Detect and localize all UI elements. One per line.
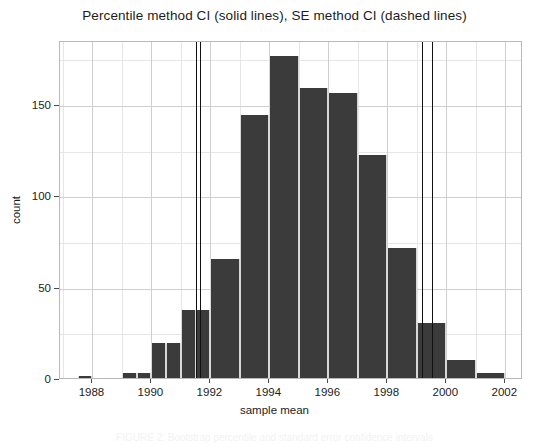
histogram-bar bbox=[446, 360, 475, 378]
histogram-bar bbox=[210, 259, 239, 378]
histogram-bar bbox=[151, 343, 166, 378]
histogram-bar bbox=[137, 373, 152, 378]
x-tick-mark bbox=[386, 379, 387, 383]
histogram-bar bbox=[78, 376, 93, 378]
x-tick-label: 1990 bbox=[138, 386, 164, 398]
x-tick-label: 1988 bbox=[79, 386, 105, 398]
gridline-vertical-minor bbox=[122, 42, 123, 378]
percentile-ci-lower bbox=[196, 42, 197, 378]
y-tick-label: 50 bbox=[7, 282, 51, 294]
x-tick-mark bbox=[504, 379, 505, 383]
histogram-bar bbox=[387, 248, 416, 378]
x-axis-label: sample mean bbox=[0, 404, 549, 416]
histogram-bar bbox=[122, 373, 137, 378]
histogram-bar bbox=[181, 310, 196, 378]
histogram-figure: Percentile method CI (solid lines), SE m… bbox=[0, 0, 549, 448]
histogram-bar bbox=[358, 155, 387, 378]
histogram-bar bbox=[328, 93, 357, 378]
histogram-bar bbox=[166, 343, 181, 378]
histogram-bar bbox=[196, 310, 211, 378]
histogram-bar bbox=[476, 373, 505, 378]
x-tick-label: 1994 bbox=[256, 386, 282, 398]
gridline-vertical bbox=[505, 42, 506, 378]
x-tick-mark bbox=[209, 379, 210, 383]
x-tick-mark bbox=[150, 379, 151, 383]
figure-caption: FIGURE 2: Bootstrap percentile and stand… bbox=[0, 432, 549, 443]
x-tick-label: 1998 bbox=[374, 386, 400, 398]
x-tick-mark bbox=[91, 379, 92, 383]
y-tick-label: 0 bbox=[7, 373, 51, 385]
gridline-vertical-minor bbox=[476, 42, 477, 378]
se-ci-upper bbox=[422, 42, 423, 378]
x-tick-label: 2002 bbox=[492, 386, 518, 398]
y-tick-label: 100 bbox=[7, 190, 51, 202]
y-tick-mark bbox=[54, 379, 59, 380]
x-tick-mark bbox=[268, 379, 269, 383]
gridline-vertical bbox=[92, 42, 93, 378]
gridline-vertical bbox=[446, 42, 447, 378]
x-tick-label: 1996 bbox=[315, 386, 341, 398]
x-tick-label: 2000 bbox=[433, 386, 459, 398]
chart-title: Percentile method CI (solid lines), SE m… bbox=[0, 8, 549, 23]
gridline-vertical-minor bbox=[63, 42, 64, 378]
histogram-bar bbox=[299, 88, 328, 378]
y-tick-label: 150 bbox=[7, 99, 51, 111]
plot-area bbox=[59, 41, 522, 379]
histogram-bar bbox=[269, 56, 298, 378]
y-tick-mark bbox=[54, 196, 59, 197]
x-tick-mark bbox=[327, 379, 328, 383]
y-tick-mark bbox=[54, 105, 59, 106]
x-tick-mark bbox=[445, 379, 446, 383]
y-tick-mark bbox=[54, 288, 59, 289]
gridline-vertical bbox=[151, 42, 152, 378]
se-ci-lower bbox=[200, 42, 201, 378]
histogram-bar bbox=[240, 115, 269, 378]
x-tick-label: 1992 bbox=[197, 386, 223, 398]
percentile-ci-upper bbox=[432, 42, 433, 378]
